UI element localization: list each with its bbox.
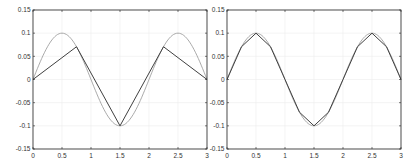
x-tick-label: 1: [283, 152, 287, 159]
y-tick-label: -0.05: [210, 99, 225, 106]
y-tick-label: -0.1: [213, 122, 225, 129]
y-tick-label: 0: [221, 76, 225, 83]
y-tick-label: -0.15: [16, 145, 31, 152]
y-tick-label: 0.1: [21, 29, 30, 36]
grid: [33, 10, 207, 149]
left-plot-panel: 00.511.522.53-0.15-0.1-0.0500.050.10.15: [16, 6, 210, 159]
x-tick-label: 0: [225, 152, 229, 159]
y-tick-label: -0.05: [16, 99, 31, 106]
y-tick-label: 0.15: [18, 6, 31, 13]
y-tick-label: -0.1: [19, 122, 31, 129]
figure: 00.511.522.53-0.15-0.1-0.0500.050.10.15 …: [0, 0, 420, 167]
y-tick-label: 0.15: [212, 6, 225, 13]
y-tick-label: 0.1: [215, 29, 224, 36]
right-plot-panel: 00.511.522.53-0.15-0.1-0.0500.050.10.15: [210, 6, 404, 159]
grid: [227, 10, 401, 149]
y-tick-label: 0.05: [212, 53, 225, 60]
x-tick-label: 0.5: [57, 152, 66, 159]
y-tick-label: 0.05: [18, 53, 31, 60]
x-tick-label: 0: [31, 152, 35, 159]
y-tick-label: -0.15: [210, 145, 225, 152]
x-tick-label: 1.5: [309, 152, 318, 159]
x-tick-label: 2: [341, 152, 345, 159]
x-tick-label: 2.5: [173, 152, 182, 159]
x-tick-label: 0.5: [251, 152, 260, 159]
x-tick-label: 2.5: [367, 152, 376, 159]
x-tick-label: 1.5: [115, 152, 124, 159]
x-tick-label: 1: [89, 152, 93, 159]
x-tick-label: 2: [147, 152, 151, 159]
x-tick-label: 3: [399, 152, 403, 159]
x-tick-label: 3: [205, 152, 209, 159]
y-tick-label: 0: [27, 76, 31, 83]
